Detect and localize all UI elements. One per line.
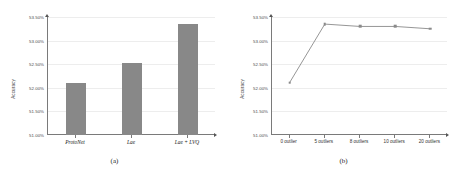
x-axis-arrow-icon: [214, 133, 217, 137]
gridline: [48, 17, 215, 18]
y-axis-tick-label: 52.00%: [29, 85, 44, 90]
x-axis-tickmark: [289, 135, 290, 138]
plot-area-a: [47, 17, 215, 135]
y-axis-tick-labels-a: 51.00%51.50%52.00%52.50%53.00%53.50%: [18, 17, 44, 135]
y-axis-tick-label: 53.00%: [253, 38, 268, 43]
subfigure-caption-b: (b): [229, 157, 458, 165]
x-axis-tick-label: Lae + LVQ: [175, 139, 199, 145]
x-axis-tick-label: 5 outliers: [314, 139, 333, 144]
x-axis-tick-label: Lae: [127, 139, 135, 145]
x-axis-tickmark: [429, 135, 430, 138]
y-axis-tick-label: 51.00%: [29, 133, 44, 138]
x-axis-tick-label: 10 outliers: [384, 139, 405, 144]
data-point-marker: [394, 25, 397, 28]
x-axis-tickmark: [324, 135, 325, 138]
y-axis-tick-label: 53.50%: [29, 15, 44, 20]
y-axis-tick-labels-b: 51.00%51.50%52.00%52.50%53.00%53.50%: [243, 17, 268, 135]
y-axis-arrow-icon: [45, 14, 49, 17]
subfigure-a: Accuracy 51.00%51.50%52.00%52.50%53.00%5…: [0, 0, 229, 178]
y-axis-tick-label: 51.50%: [253, 109, 268, 114]
x-axis-tick-label: 0 outlier: [280, 139, 296, 144]
x-axis-tickmark: [131, 135, 132, 138]
y-axis-tick-label: 52.50%: [29, 62, 44, 67]
bar-lae-lvq: [178, 24, 197, 135]
y-axis-tick-label: 51.00%: [253, 133, 268, 138]
y-axis-tick-label: 53.00%: [29, 38, 44, 43]
x-axis-tickmark: [359, 135, 360, 138]
line-series: [272, 17, 448, 135]
y-axis-arrow-icon: [269, 14, 273, 17]
x-axis-tickmark: [394, 135, 395, 138]
y-axis-tick-label: 53.50%: [253, 15, 268, 20]
x-axis-tickmark: [187, 135, 188, 138]
data-point-marker: [359, 25, 362, 28]
bar-lae: [122, 63, 141, 135]
bar-protonet: [66, 83, 85, 135]
y-axis-tick-label: 52.00%: [253, 85, 268, 90]
x-axis-tick-label: 20 outliers: [419, 139, 440, 144]
x-axis-tick-label: 8 outliers: [350, 139, 369, 144]
data-point-marker: [429, 28, 432, 31]
plot-area-b: [271, 17, 447, 135]
figure-row: Accuracy 51.00%51.50%52.00%52.50%53.00%5…: [0, 0, 458, 178]
x-axis-arrow-icon: [446, 133, 449, 137]
data-point-marker: [288, 81, 291, 84]
y-axis-title-a: Accuracy: [11, 79, 16, 99]
y-axis-tick-label: 51.50%: [29, 109, 44, 114]
x-axis-tickmark: [75, 135, 76, 138]
subfigure-caption-a: (a): [0, 157, 229, 165]
data-point-marker: [324, 23, 327, 26]
subfigure-b: Accuracy 51.00%51.50%52.00%52.50%53.00%5…: [229, 0, 458, 178]
y-axis-tick-label: 52.50%: [253, 62, 268, 67]
x-axis-tick-label: ProtoNet: [65, 139, 85, 145]
